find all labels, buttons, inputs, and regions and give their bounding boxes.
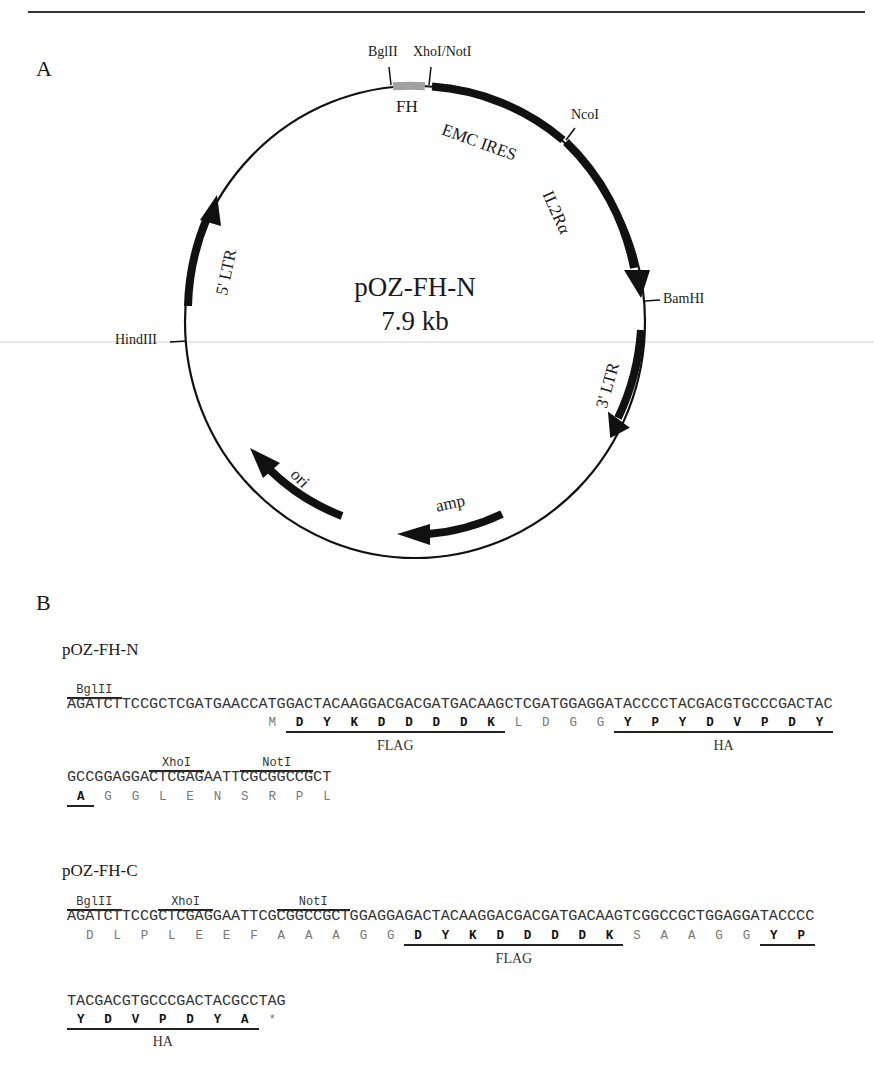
amino-acid: P [650, 716, 660, 730]
amino-acid: E [194, 929, 204, 943]
amino-acid: A [76, 790, 86, 804]
amino-acid: D [404, 716, 414, 730]
amino-acid: A [240, 1013, 250, 1027]
amino-acid: K [605, 929, 615, 943]
amino-acid: E [222, 929, 232, 943]
amino-acid: S [240, 790, 250, 804]
amino-acid: D [550, 929, 560, 943]
epitope-tag-bar [760, 944, 815, 946]
amino-acid: L [322, 790, 332, 804]
amino-acid: Y [76, 1013, 86, 1027]
epitope-tag-bar [614, 731, 833, 733]
amino-acid: V [732, 716, 742, 730]
site-label-xhoi-noti: XhoI/NotI [413, 44, 471, 60]
hindiii-tick [170, 341, 186, 342]
amino-acid: P [140, 929, 150, 943]
panel-label-b: B [36, 590, 51, 616]
amino-acid: N [212, 790, 222, 804]
seq-title-c: pOZ-FH-C [62, 861, 138, 881]
amino-acid: D [295, 716, 305, 730]
amino-acid: D [787, 716, 797, 730]
seq-title-n: pOZ-FH-N [62, 640, 139, 660]
amino-acid: A [659, 929, 669, 943]
amino-acid: P [796, 929, 806, 943]
plasmid-name: pOZ-FH-N [340, 272, 490, 303]
amino-acid: G [358, 929, 368, 943]
dna-sequence: AGATCTTCCGCTCGATGAACCATGGACTACAAGGACGACG… [67, 697, 833, 711]
amino-acid: R [267, 790, 277, 804]
amino-acid: D [541, 716, 551, 730]
amino-acid: A [276, 929, 286, 943]
amino-acid: P [295, 790, 305, 804]
amino-acid: V [130, 1013, 140, 1027]
amino-acid: D [705, 716, 715, 730]
site-label-hindiii: HindIII [115, 332, 157, 348]
amino-acid: G [741, 929, 751, 943]
amino-acid: G [103, 790, 113, 804]
5-ltr-arrow-body [188, 218, 207, 306]
bglii-tick [389, 67, 391, 85]
amp-arrow-body [428, 514, 502, 534]
amino-acid: P [158, 1013, 168, 1027]
amino-acid: G [714, 929, 724, 943]
epitope-tag-label: FLAG [496, 951, 533, 967]
amino-acid: Y [623, 716, 633, 730]
amino-acid: M [267, 716, 277, 730]
amino-acid: G [568, 716, 578, 730]
plasmid-size: 7.9 kb [340, 306, 490, 337]
site-label-ncoi: NcoI [571, 107, 599, 123]
amino-acid: K [486, 716, 496, 730]
amino-acid: L [167, 929, 177, 943]
amino-acid: D [495, 929, 505, 943]
xhoi-noti-tick [429, 67, 431, 85]
bamhi-tick [645, 300, 660, 301]
amino-acid: D [523, 929, 533, 943]
amino-acid: Y [212, 1013, 222, 1027]
amino-acid: S [632, 929, 642, 943]
amino-acid: D [85, 929, 95, 943]
epitope-tag-bar [404, 944, 623, 946]
site-label-bglii: BglII [368, 44, 398, 60]
amino-acid: D [413, 929, 423, 943]
epitope-tag-label: HA [714, 738, 734, 754]
amino-acid: P [760, 716, 770, 730]
feature-label-fh: FH [396, 97, 418, 117]
dna-sequence: AGATCTTCCGCTCGAGGAATTCGCGGCCGCTGGAGGAGAC… [67, 909, 814, 923]
dna-sequence: TACGACGTGCCCGACTACGCCTAG [67, 994, 286, 1008]
epitope-tag-label: FLAG [377, 738, 414, 754]
dna-sequence: GCCGGAGGACTCGAGAATTCGCGGCCGCT [67, 770, 331, 784]
amino-acid: G [386, 929, 396, 943]
amino-acid: D [459, 716, 469, 730]
amino-acid: F [249, 929, 259, 943]
amino-acid: L [158, 790, 168, 804]
amino-acid: D [377, 716, 387, 730]
il2ra-arrowhead [624, 270, 650, 298]
amino-acid: D [431, 716, 441, 730]
site-label-bamhi: BamHI [663, 291, 704, 307]
il2ra-arrow-body [566, 142, 634, 268]
epitope-tag-bar [67, 1028, 259, 1030]
epitope-tag-bar [67, 805, 94, 807]
amino-acid: D [103, 1013, 113, 1027]
amino-acid: K [468, 929, 478, 943]
amino-acid: Y [678, 716, 688, 730]
amino-acid: L [112, 929, 122, 943]
amino-acid: D [185, 1013, 195, 1027]
amino-acid: D [577, 929, 587, 943]
epitope-tag-bar [286, 731, 505, 733]
amp-arrowhead [397, 524, 430, 545]
amino-acid: Y [440, 929, 450, 943]
amino-acid: * [267, 1013, 277, 1027]
amino-acid: Y [814, 716, 824, 730]
amino-acid: G [130, 790, 140, 804]
amino-acid: A [687, 929, 697, 943]
amino-acid: Y [322, 716, 332, 730]
amino-acid: Y [769, 929, 779, 943]
ncoi-tick [566, 128, 575, 140]
fh-tag-block [393, 86, 425, 87]
amino-acid: A [331, 929, 341, 943]
amino-acid: G [596, 716, 606, 730]
amino-acid: L [513, 716, 523, 730]
amino-acid: E [185, 790, 195, 804]
epitope-tag-label: HA [153, 1034, 173, 1050]
